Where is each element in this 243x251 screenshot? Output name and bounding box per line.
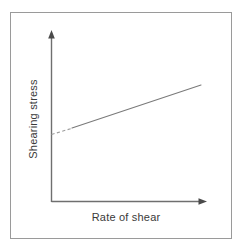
- rheogram-plot: Rate of shear Shearing stress: [0, 0, 243, 251]
- flow-curve-solid: [72, 85, 201, 128]
- y-axis-label: Shearing stress: [27, 79, 39, 159]
- x-axis-label: Rate of shear: [92, 211, 161, 223]
- yield-stress-extrapolation-dashed: [52, 128, 74, 135]
- x-axis-arrowhead-icon: [199, 198, 208, 205]
- figure-root: Rate of shear Shearing stress: [0, 0, 243, 251]
- y-axis-arrowhead-icon: [48, 30, 55, 39]
